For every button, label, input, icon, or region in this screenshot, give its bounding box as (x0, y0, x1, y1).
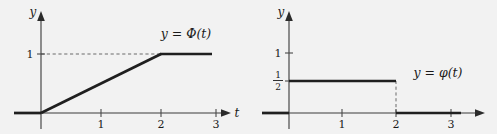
step-curve-label: y = φ(t) (412, 65, 462, 80)
ramp-svg: y t 1 1 2 3 y = Φ(t) (0, 0, 248, 134)
x-tick-label-2: 2 (158, 118, 165, 131)
y-tick-label-1: 1 (275, 47, 282, 60)
x-axis-arrowhead (221, 109, 231, 117)
y-tick-label-1: 1 (27, 48, 34, 61)
y-axis-arrowhead (37, 11, 45, 21)
y-axis-arrowhead (285, 11, 293, 21)
fraction-denominator: 2 (275, 82, 281, 92)
step-function-plot: y 1 1 2 1 2 3 y = φ(t) (248, 0, 497, 134)
x-tick-label-1: 1 (339, 118, 346, 131)
x-tick-label-1: 1 (98, 118, 105, 131)
step-svg: y 1 1 2 1 2 3 y = φ(t) (248, 0, 497, 134)
figure-container: y t 1 1 2 3 y = Φ(t) (0, 0, 497, 134)
y-axis-label: y (29, 5, 37, 19)
ramp-curve-label: y = Φ(t) (160, 26, 212, 41)
x-tick-label-3: 3 (213, 118, 220, 131)
y-axis-label: y (277, 5, 285, 19)
x-tick-label-3: 3 (448, 118, 455, 131)
x-axis-arrowhead (475, 109, 485, 117)
ramp-rising-segment (41, 54, 161, 113)
fraction-numerator: 1 (275, 70, 281, 80)
ramp-function-plot: y t 1 1 2 3 y = Φ(t) (0, 0, 248, 134)
x-axis-label: t (235, 106, 240, 120)
y-tick-label-half: 1 2 (273, 70, 283, 92)
x-tick-label-2: 2 (393, 118, 400, 131)
